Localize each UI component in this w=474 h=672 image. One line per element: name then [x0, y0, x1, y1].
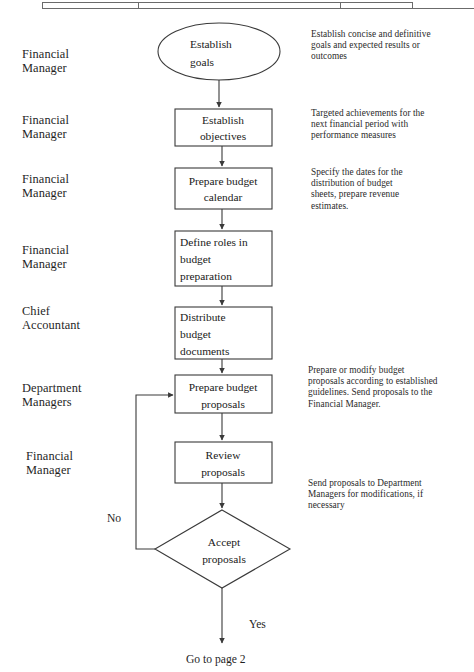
node-label-review-proposals-line1: Review [206, 449, 242, 461]
node-label-establish-goals-line2: goals [190, 56, 215, 68]
node-label-define-roles-line2: budget [180, 253, 212, 265]
flowchart-svg: Establish goals Establish objectives Pre… [0, 0, 474, 672]
node-label-distribute-documents-line3: documents [180, 345, 230, 357]
node-label-establish-objectives-line1: Establish [202, 114, 244, 126]
node-establish-goals [158, 23, 280, 80]
node-label-establish-goals-line1: Establish [190, 38, 232, 50]
node-label-prepare-proposals-line2: proposals [201, 398, 245, 410]
node-label-define-roles-line3: preparation [180, 270, 232, 282]
flowchart-page: Financial Manager Financial Manager Fina… [0, 0, 474, 672]
node-label-prepare-budget-calendar-line1: Prepare budget [189, 175, 258, 187]
node-label-prepare-proposals-line1: Prepare budget [189, 381, 258, 393]
node-label-accept-proposals-line2: proposals [202, 553, 246, 565]
edge-no-feedback-loop [136, 395, 173, 549]
node-label-review-proposals-line2: proposals [201, 466, 245, 478]
node-accept-proposals [155, 510, 290, 588]
node-label-establish-objectives-line2: objectives [200, 130, 247, 142]
node-label-prepare-budget-calendar-line2: calendar [204, 191, 243, 203]
node-label-distribute-documents-line2: budget [180, 328, 212, 340]
node-label-define-roles-line1: Define roles in [180, 236, 248, 248]
node-label-accept-proposals-line1: Accept [208, 536, 241, 548]
node-label-distribute-documents-line1: Distribute [180, 311, 226, 323]
